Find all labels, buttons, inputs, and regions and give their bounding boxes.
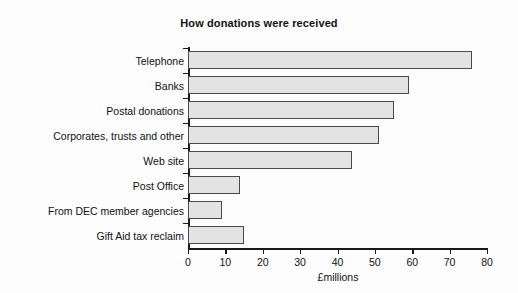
bar	[188, 226, 244, 244]
bar-row	[188, 98, 487, 123]
bar-row	[188, 73, 487, 98]
x-axis-tick	[487, 249, 488, 254]
bar	[188, 76, 409, 94]
x-axis-tick	[375, 249, 376, 254]
x-axis-tick	[450, 249, 451, 254]
x-axis-title: £millions	[188, 271, 488, 283]
bar-row	[188, 148, 487, 173]
x-axis-tick-label: 40	[318, 256, 358, 268]
bar	[188, 126, 379, 144]
bar-row	[188, 198, 487, 223]
category-label: Web site	[0, 155, 184, 167]
bar	[188, 51, 472, 69]
x-axis-tick-label: 80	[467, 256, 507, 268]
bar	[188, 176, 240, 194]
bar	[188, 151, 352, 169]
category-label: Post Office	[0, 180, 184, 192]
bar-chart-figure: How donations were received TelephoneBan…	[0, 0, 518, 293]
bar-row	[188, 123, 487, 148]
bar-row	[188, 223, 487, 248]
plot-area	[188, 48, 487, 248]
x-axis-tick	[188, 249, 189, 254]
chart-title: How donations were received	[0, 17, 518, 29]
category-label: From DEC member agencies	[0, 205, 184, 217]
x-axis-tick-label: 30	[280, 256, 320, 268]
x-axis-tick	[338, 249, 339, 254]
x-axis-tick-label: 50	[355, 256, 395, 268]
bar	[188, 201, 222, 219]
x-axis-tick-label: 0	[168, 256, 208, 268]
x-axis-tick	[225, 249, 226, 254]
bar	[188, 101, 394, 119]
x-axis-tick	[412, 249, 413, 254]
category-label: Corporates, trusts and other	[0, 130, 184, 142]
x-axis-tick	[300, 249, 301, 254]
x-axis-tick-label: 70	[430, 256, 470, 268]
category-label: Gift Aid tax reclaim	[0, 230, 184, 242]
category-label: Telephone	[0, 55, 184, 67]
x-axis-tick-label: 10	[205, 256, 245, 268]
category-label: Postal donations	[0, 105, 184, 117]
bar-row	[188, 173, 487, 198]
x-axis-tick	[263, 249, 264, 254]
category-label: Banks	[0, 80, 184, 92]
x-axis-tick-label: 60	[392, 256, 432, 268]
bar-row	[188, 48, 487, 73]
x-axis-tick-label: 20	[243, 256, 283, 268]
